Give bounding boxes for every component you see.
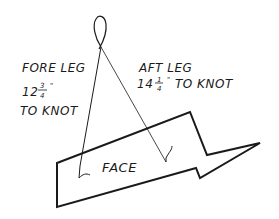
aft-leg-suffix: TO KNOT — [175, 77, 234, 91]
fore-leg-denominator: 4 — [40, 92, 45, 100]
aft-leg-unit: " — [167, 76, 171, 84]
fore-leg-numerator: 3 — [40, 82, 45, 90]
bridle-loop — [94, 16, 106, 49]
aft-leg-whole: 14 — [137, 77, 153, 91]
fore-leg-unit: " — [50, 82, 54, 90]
fore-leg-whole: 12 — [22, 85, 38, 99]
bridle-diagram: FORE LEG 12 3 4 " TO KNOT AFT LEG 14 1 4… — [0, 0, 279, 219]
aft-leg-label: AFT LEG — [138, 61, 192, 75]
face-label: FACE — [102, 160, 137, 175]
fore-leg-suffix: TO KNOT — [20, 104, 79, 118]
aft-leg-denominator: 4 — [157, 85, 162, 93]
aft-leg-attach — [166, 146, 172, 162]
fore-leg-attach — [79, 166, 90, 178]
fore-leg-label: FORE LEG — [22, 61, 86, 75]
